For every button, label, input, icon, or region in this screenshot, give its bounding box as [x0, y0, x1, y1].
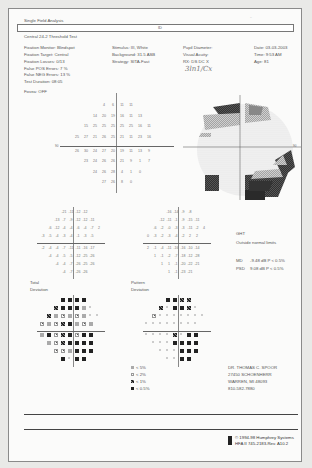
- total-deviation-symbol-p1-icon: [61, 341, 65, 345]
- pattern-deviation-symbol-normal-icon: [159, 322, 161, 324]
- threshold-value: 21: [118, 135, 127, 139]
- pattern-sub-label: Deviation: [131, 287, 149, 292]
- threshold-value: 1: [127, 170, 136, 174]
- pattern-deviation-symbol-normal-icon: [180, 314, 182, 316]
- pattern-deviation-symbol-p05-icon: [194, 341, 198, 345]
- total-deviation-symbol-p1-icon: [61, 333, 65, 337]
- total-deviation-symbol-p2-icon: [54, 322, 58, 326]
- pattern-deviation-symbol-p05-icon: [173, 298, 177, 302]
- threshold-value: 4: [100, 103, 109, 107]
- pattern-deviation-symbol-p05-icon: [173, 306, 177, 310]
- visual-acuity: Visual Acuity:: [183, 52, 208, 57]
- pattern-deviation-symbol-normal-icon: [194, 314, 196, 316]
- pattern-deviation-value: -14: [193, 246, 202, 250]
- total-deviation-symbol-p05-icon: [61, 357, 65, 361]
- total-deviation-symbol-p5-icon: [89, 322, 93, 326]
- pattern-deviation-value: 2: [193, 234, 202, 238]
- total-deviation-symbol-p5-icon: [40, 333, 44, 337]
- pdp-horizontal-axis: [143, 331, 211, 332]
- psd-label: PSD: [236, 266, 245, 271]
- pattern-deviation-symbol-normal-icon: [180, 322, 182, 324]
- threshold-value: 25: [100, 124, 109, 128]
- total-deviation-symbol-p05-icon: [61, 306, 65, 310]
- pattern-deviation-symbol-p1-icon: [173, 333, 177, 337]
- threshold-value: 11: [145, 124, 154, 128]
- threshold-value: 21: [118, 159, 127, 163]
- rx: RX: DS DC X: [183, 59, 209, 64]
- legend-dark-icon: [131, 380, 134, 383]
- pattern-deviation-symbol-p1-icon: [180, 298, 184, 302]
- threshold-value: 8: [118, 180, 127, 184]
- pattern-deviation-symbol-normal-icon: [173, 322, 175, 324]
- md-label: MD: [236, 258, 243, 263]
- td-horizontal-axis: [37, 243, 105, 244]
- pattern-deviation-symbol-normal-icon: [145, 333, 147, 335]
- pattern-deviation-symbol-p05-icon: [187, 341, 191, 345]
- pattern-deviation-symbol-normal-icon: [166, 357, 168, 359]
- threshold-value: 7: [145, 159, 154, 163]
- legend-label-05: < 0.5%: [136, 386, 150, 391]
- total-deviation-symbol-p5-icon: [68, 349, 72, 353]
- pattern-deviation-symbol-normal-icon: [159, 314, 161, 316]
- pattern-deviation-value: -21: [186, 270, 195, 274]
- pattern-deviation-symbol-normal-icon: [152, 333, 154, 335]
- total-deviation-symbol-p2-icon: [75, 333, 79, 337]
- total-deviation-symbol-p5-icon: [47, 341, 51, 345]
- pattern-deviation-value: -11: [193, 218, 202, 222]
- total-deviation-symbol-p1-icon: [61, 322, 65, 326]
- pattern-deviation-symbol-p05-icon: [180, 341, 184, 345]
- total-deviation-value: 2: [95, 226, 104, 230]
- total-deviation-value: -26: [88, 262, 97, 266]
- total-deviation-symbol-p05-icon: [68, 298, 72, 302]
- threshold-value: 24: [91, 159, 100, 163]
- threshold-value: 26: [73, 149, 82, 153]
- total-deviation-symbol-p05-icon: [47, 333, 51, 337]
- threshold-value: 11: [127, 103, 136, 107]
- threshold-value: 20: [100, 114, 109, 118]
- grayscale-map: 90: [183, 95, 308, 200]
- pattern-deviation-symbol-normal-icon: [166, 306, 168, 308]
- total-deviation-value: -26: [81, 270, 90, 274]
- threshold-value: 26: [109, 180, 118, 184]
- doctor-street: 27450 SCHOENHERR: [228, 372, 272, 377]
- total-deviation-symbol-p05-icon: [61, 298, 65, 302]
- total-deviation-symbol-p5-icon: [68, 314, 72, 318]
- legend-label-2: < 2%: [136, 372, 146, 377]
- pattern-deviation-symbol-normal-icon: [201, 314, 203, 316]
- total-deviation-symbol-p2-icon: [61, 349, 65, 353]
- model-number: HFA II 745-2183-Rev. A10.2: [235, 441, 288, 446]
- threshold-value: 0: [127, 180, 136, 184]
- total-deviation-value: -11: [88, 218, 97, 222]
- pattern-deviation-symbol-normal-icon: [166, 341, 168, 343]
- ght-value: Outside normal limits: [236, 240, 276, 245]
- threshold-value: 11: [118, 103, 127, 107]
- test-duration: Test Duration: 08:05: [24, 79, 62, 84]
- total-sub-label: Deviation: [30, 287, 48, 292]
- threshold-value: 25: [73, 135, 82, 139]
- pattern-deviation-symbol-normal-icon: [187, 314, 189, 316]
- threshold-value: 4: [118, 170, 127, 174]
- threshold-value: 13: [136, 149, 145, 153]
- threshold-value: 23: [136, 135, 145, 139]
- footer-rule-top: [24, 414, 298, 415]
- threshold-value: 16: [145, 135, 154, 139]
- legend-label-1: < 1%: [136, 379, 146, 384]
- threshold-value: 16: [136, 124, 145, 128]
- copyright: © 1994-98 Humphrey Systems: [235, 435, 294, 440]
- pattern-deviation-symbol-normal-icon: [166, 322, 168, 324]
- patient-id-field: ID: [17, 24, 294, 32]
- fovea-status: Fovea: OFF: [24, 89, 47, 94]
- pattern-deviation-symbol-p1-icon: [159, 306, 163, 310]
- threshold-value: 6: [109, 103, 118, 107]
- pattern-deviation-symbol-normal-icon: [173, 357, 175, 359]
- vertical-axis: [116, 93, 117, 193]
- axis-label-90: 90: [55, 144, 58, 148]
- total-deviation-symbol-p2-icon: [40, 322, 44, 326]
- total-deviation-symbol-p05-icon: [75, 298, 79, 302]
- threshold-value: 0: [136, 170, 145, 174]
- pattern-deviation-value: 4: [200, 226, 209, 230]
- doctor-phone: 810-582-7880: [228, 386, 255, 391]
- report-title: Single Field Analysis: [24, 18, 63, 23]
- pattern-deviation-symbol-normal-icon: [159, 333, 161, 335]
- threshold-value: 11: [127, 149, 136, 153]
